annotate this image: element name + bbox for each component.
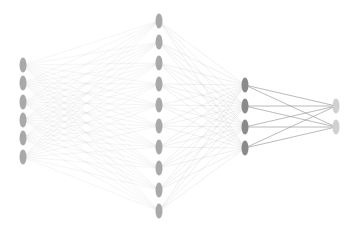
hidden-1-node xyxy=(156,35,163,50)
connection-edge xyxy=(159,63,245,85)
hidden-1-node xyxy=(156,119,163,134)
output-node xyxy=(333,120,340,135)
connection-edge xyxy=(23,157,159,168)
connection-edge xyxy=(245,85,336,106)
connection-edge xyxy=(23,157,159,190)
connection-edge xyxy=(23,84,159,138)
connection-edge xyxy=(23,63,159,102)
connection-edge xyxy=(23,102,159,211)
connection-edge xyxy=(23,63,159,65)
hidden-1-node xyxy=(156,77,163,92)
connection-edge xyxy=(159,127,245,211)
connection-edge xyxy=(23,120,159,126)
connection-edge xyxy=(159,85,245,126)
hidden-2-node xyxy=(242,78,249,93)
connection-edge xyxy=(23,21,159,120)
output-node xyxy=(333,99,340,114)
connection-edge xyxy=(245,127,336,148)
connection-edge xyxy=(23,63,159,120)
hidden-2-node xyxy=(242,141,249,156)
hidden-1-node xyxy=(156,183,163,198)
hidden-1-node xyxy=(156,204,163,219)
connection-edge xyxy=(159,42,245,85)
connection-edge xyxy=(159,148,245,168)
connection-edge xyxy=(23,102,159,126)
hidden-2-node xyxy=(242,99,249,114)
connection-edge xyxy=(23,21,159,83)
hidden-2-node xyxy=(242,120,249,135)
connections xyxy=(23,21,336,211)
input-node xyxy=(20,131,27,146)
hidden-1-node xyxy=(156,14,163,29)
input-node xyxy=(20,58,27,73)
connection-edge xyxy=(23,102,159,147)
neural-network-diagram xyxy=(0,0,358,230)
connection-edge xyxy=(159,85,245,105)
input-node xyxy=(20,76,27,91)
hidden-1-node xyxy=(156,56,163,71)
connection-edge xyxy=(23,157,159,211)
input-node xyxy=(20,95,27,110)
hidden-1-node xyxy=(156,98,163,113)
connection-edge xyxy=(159,148,245,211)
input-node xyxy=(20,150,27,165)
hidden-1-node xyxy=(156,161,163,176)
connection-edge xyxy=(159,85,245,168)
hidden-1-node xyxy=(156,140,163,155)
input-node xyxy=(20,113,27,128)
connection-edge xyxy=(23,63,159,83)
connection-edge xyxy=(23,21,159,65)
